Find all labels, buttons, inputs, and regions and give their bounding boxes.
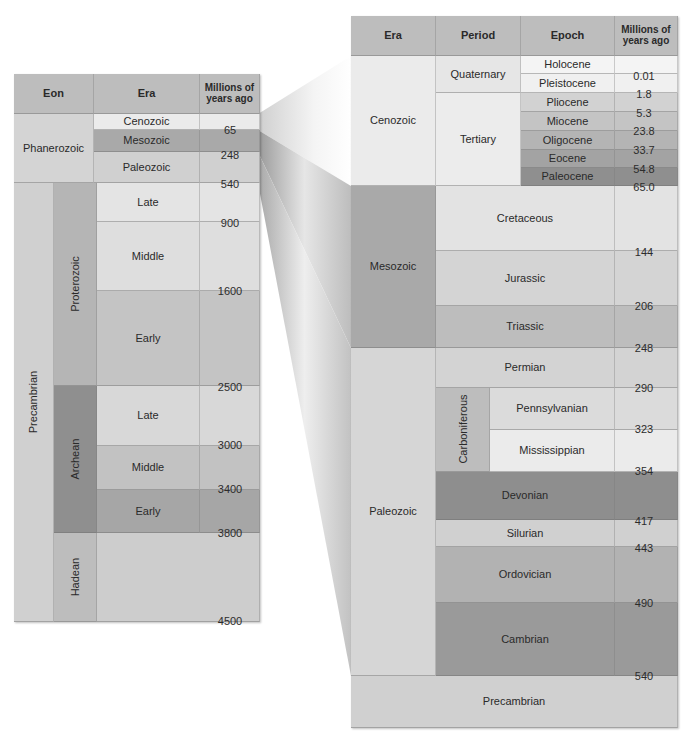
period-triassic: Triassic xyxy=(436,306,615,348)
boundary-3000: 3000 xyxy=(218,440,242,451)
boundary-900: 900 xyxy=(221,218,239,229)
boundary-323: 323 xyxy=(635,424,653,435)
period-jurassic: Jurassic xyxy=(436,251,615,306)
fan-cenozoic xyxy=(258,56,351,186)
myr-cell-cambrian xyxy=(615,603,678,676)
eon-precambrian: Precambrian xyxy=(14,183,54,622)
boundary-5.3: 5.3 xyxy=(636,108,651,119)
fan-mesozoic xyxy=(258,130,351,348)
period-permian: Permian xyxy=(436,348,615,388)
boundary-1.8: 1.8 xyxy=(636,89,651,100)
era-mesozoic: Mesozoic xyxy=(351,186,436,348)
proterozoic-middle: Middle xyxy=(97,222,200,291)
myr-cell-proterozoic-early xyxy=(200,291,260,386)
boundary-443: 443 xyxy=(635,543,653,554)
boundary-23.8: 23.8 xyxy=(633,126,654,137)
header-era: Era xyxy=(351,16,436,56)
era-paleozoic: Paleozoic xyxy=(351,348,436,676)
boundary-54.8: 54.8 xyxy=(633,164,654,175)
boundary-540: 540 xyxy=(635,671,653,682)
era-precambrian: Precambrian xyxy=(351,676,678,728)
boundary-0.01: 0.01 xyxy=(633,71,654,82)
myr-cell-proterozoic-middle xyxy=(200,222,260,291)
epoch-miocene: Miocene xyxy=(521,112,615,131)
boundary-417: 417 xyxy=(635,516,653,527)
era-hadean: Hadean xyxy=(54,533,97,622)
boundary-540: 540 xyxy=(221,179,239,190)
period-devonian: Devonian xyxy=(436,472,615,520)
archean-late: Late xyxy=(97,386,200,446)
period-tertiary: Tertiary xyxy=(436,93,521,186)
era-paleozoic: Paleozoic xyxy=(94,152,200,183)
epoch-pliocene: Pliocene xyxy=(521,93,615,112)
myr-cell-cretaceous xyxy=(615,186,678,251)
myr-cell-archean-late xyxy=(200,386,260,446)
boundary-290: 290 xyxy=(635,383,653,394)
boundary-1600: 1600 xyxy=(218,286,242,297)
era-proterozoic: Proterozoic xyxy=(54,183,97,386)
archean-early: Early xyxy=(97,490,200,533)
era-cenozoic: Cenozoic xyxy=(94,114,200,130)
period-cambrian: Cambrian xyxy=(436,603,615,676)
header-epoch: Epoch xyxy=(521,16,615,56)
boundary-144: 144 xyxy=(635,247,653,258)
period-cretaceous: Cretaceous xyxy=(436,186,615,251)
subperiod-mississippian: Mississippian xyxy=(490,430,615,472)
header-millions-of-years-ago: Millions of years ago xyxy=(615,16,678,56)
boundary-248: 248 xyxy=(635,343,653,354)
epoch-pleistocene: Pleistocene xyxy=(521,74,615,93)
header-eon: Eon xyxy=(14,74,94,114)
header-era: Era xyxy=(94,74,200,114)
eon-phanerozoic: Phanerozoic xyxy=(14,114,94,183)
proterozoic-early: Early xyxy=(97,291,200,386)
epoch-eocene: Eocene xyxy=(521,150,615,168)
boundary-206: 206 xyxy=(635,301,653,312)
archean-middle: Middle xyxy=(97,446,200,490)
boundary-490: 490 xyxy=(635,598,653,609)
subperiod-pennsylvanian: Pennsylvanian xyxy=(490,388,615,430)
boundary-354: 354 xyxy=(635,466,653,477)
boundary-3400: 3400 xyxy=(218,484,242,495)
period-carboniferous: Carboniferous xyxy=(436,388,490,472)
era-mesozoic: Mesozoic xyxy=(94,130,200,152)
boundary-248: 248 xyxy=(221,150,239,161)
period-ordovician: Ordovician xyxy=(436,547,615,603)
myr-cell-ordovician xyxy=(615,547,678,603)
period-quaternary: Quaternary xyxy=(436,56,521,93)
boundary-2500: 2500 xyxy=(218,382,242,393)
epoch-holocene: Holocene xyxy=(521,56,615,74)
period-silurian: Silurian xyxy=(436,520,615,547)
boundary-3800: 3800 xyxy=(218,528,242,539)
myr-cell-devonian xyxy=(615,472,678,520)
epoch-paleocene: Paleocene xyxy=(521,168,615,186)
boundary-4500: 4500 xyxy=(218,616,242,627)
boundary-65.0: 65.0 xyxy=(633,182,654,193)
header-millions-of-years-ago: Millions of years ago xyxy=(200,74,260,114)
boundary-65: 65 xyxy=(224,125,236,136)
hadean-span xyxy=(97,533,260,622)
era-archean: Archean xyxy=(54,386,97,533)
boundary-33.7: 33.7 xyxy=(633,145,654,156)
era-cenozoic: Cenozoic xyxy=(351,56,436,186)
epoch-oligocene: Oligocene xyxy=(521,131,615,150)
header-period: Period xyxy=(436,16,521,56)
proterozoic-late: Late xyxy=(97,183,200,222)
fan-paleozoic xyxy=(258,152,351,676)
myr-cell-jurassic xyxy=(615,251,678,306)
